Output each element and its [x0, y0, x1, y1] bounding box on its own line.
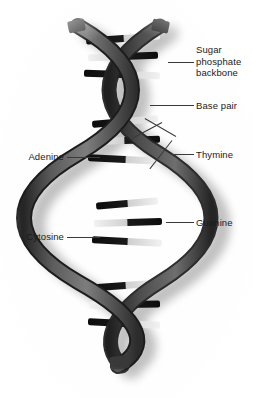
label-sugar-phosphate-backbone: Sugar phosphate backbone — [196, 44, 253, 79]
leader-line-adenine — [67, 157, 100, 158]
label-adenine: Adenine — [8, 151, 64, 163]
label-guanine: Guanine — [196, 217, 253, 229]
leader-line-thymine — [171, 154, 194, 155]
leader-line-guanine — [166, 222, 194, 223]
leader-line-cytosine — [67, 237, 100, 238]
dna-helix-figure: Sugar phosphate backbone Base pair Thymi… — [0, 0, 253, 399]
label-base-pair: Base pair — [196, 100, 253, 112]
dna-diagram-page: Sugar phosphate backbone Base pair Thymi… — [0, 0, 253, 399]
label-thymine: Thymine — [196, 149, 253, 161]
leader-line-base-pair — [150, 105, 194, 106]
label-cytosine: Cytosine — [4, 231, 64, 243]
leader-line-sugar-phosphate-backbone — [168, 62, 194, 63]
